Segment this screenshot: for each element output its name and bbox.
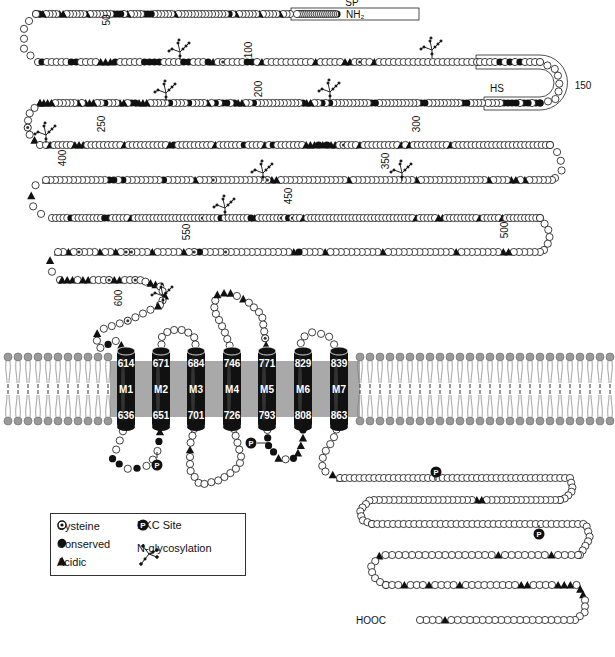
lipid-head <box>104 417 112 425</box>
residue <box>442 551 449 558</box>
residue <box>27 52 34 59</box>
residue <box>308 329 315 336</box>
lipid-head <box>14 353 22 361</box>
lipid-head <box>14 417 22 425</box>
lipid-head <box>466 417 474 425</box>
lipid-head <box>566 417 574 425</box>
lipid-tail <box>56 395 61 417</box>
pkc-letter: P <box>154 461 159 470</box>
lipid-tail <box>388 361 393 383</box>
residue <box>212 310 219 317</box>
receptor-topology-diagram: SPNH₂HSHOOC 614M1636671M2651684M3701746M… <box>0 0 615 657</box>
helix-top-cap <box>330 347 348 355</box>
lipid-tail <box>518 361 523 383</box>
lipid-tail <box>66 395 71 417</box>
residue <box>568 551 575 558</box>
chain-segment-row4 <box>42 141 553 149</box>
residue <box>20 25 27 32</box>
residue-number-500: 500 <box>499 221 510 238</box>
residue <box>211 304 218 311</box>
lipid-head <box>376 417 384 425</box>
residue-number-100: 100 <box>243 41 254 58</box>
residue <box>116 320 123 327</box>
residue <box>455 551 462 558</box>
residue <box>552 95 559 102</box>
lipid-tail <box>528 395 533 417</box>
residue <box>100 325 107 332</box>
conserved-residue <box>264 434 271 441</box>
helix-top-cap <box>152 347 170 355</box>
residue <box>521 551 528 558</box>
conserved-residue <box>116 460 123 467</box>
residue <box>164 328 171 335</box>
residue <box>20 35 27 42</box>
lipid-head <box>406 417 414 425</box>
lipid-tail <box>558 361 563 383</box>
residue <box>26 110 33 117</box>
lipid-head <box>44 353 52 361</box>
lipid-head <box>606 417 614 425</box>
chain-segment-turn1 <box>20 10 41 65</box>
helix-name: M6 <box>296 384 310 395</box>
lipid-head <box>536 353 544 361</box>
residue <box>528 551 535 558</box>
acidic-residue <box>27 191 35 199</box>
residue <box>261 328 268 335</box>
residue <box>326 333 333 340</box>
residue <box>185 329 192 336</box>
residue <box>508 551 515 558</box>
helix-start-number: 746 <box>224 358 241 369</box>
lipid-tail <box>418 361 423 383</box>
residue <box>541 551 548 558</box>
helix-top-cap <box>187 347 205 355</box>
residue <box>402 551 409 558</box>
residue <box>450 581 457 588</box>
pkc-letter: P <box>536 530 541 539</box>
lipid-head <box>506 353 514 361</box>
lipid-tail <box>588 395 593 417</box>
lipid-head <box>24 353 32 361</box>
lipid-head <box>104 353 112 361</box>
residue <box>186 460 193 467</box>
cysteine-residue-dot <box>130 251 133 254</box>
lipid-tail <box>96 395 101 417</box>
residue <box>544 62 551 69</box>
lipid-head <box>446 353 454 361</box>
lipid-tail <box>6 395 11 417</box>
lipid-tail <box>106 361 111 383</box>
lipid-head <box>74 353 82 361</box>
lipid-head <box>416 353 424 361</box>
lipid-tail <box>398 361 403 383</box>
helix-m3: 684M3701 <box>187 347 205 431</box>
conserved-residue <box>155 438 162 445</box>
residue <box>113 446 120 453</box>
lipid-tail <box>16 361 21 383</box>
lipid-head <box>84 353 92 361</box>
residue <box>395 581 402 588</box>
acidic-residue <box>294 449 302 457</box>
helix-bottom-cap <box>223 423 241 431</box>
lipid-head <box>536 417 544 425</box>
helix-start-number: 771 <box>259 358 276 369</box>
residue <box>178 326 185 333</box>
helix-end-number: 636 <box>118 410 135 421</box>
lipid-head <box>426 417 434 425</box>
chain-segment-row1 <box>293 10 340 17</box>
lipid-tail <box>368 395 373 417</box>
residue <box>171 326 178 333</box>
lipid-tail <box>568 395 573 417</box>
n-terminus-label: NH₂ <box>346 9 364 20</box>
pkc-site-icon: P <box>137 519 149 531</box>
lipid-head <box>596 417 604 425</box>
residue <box>233 292 240 299</box>
lipid-head <box>406 353 414 361</box>
lipid-head <box>356 353 364 361</box>
acidic-residue <box>329 471 337 479</box>
chain-segment-turn2 <box>24 99 44 149</box>
acidic-residue <box>186 446 194 454</box>
residue <box>382 551 389 558</box>
lipid-head <box>556 353 564 361</box>
n-glycosylation-icon <box>137 542 161 566</box>
lipid-head <box>94 353 102 361</box>
lipid-head <box>94 417 102 425</box>
